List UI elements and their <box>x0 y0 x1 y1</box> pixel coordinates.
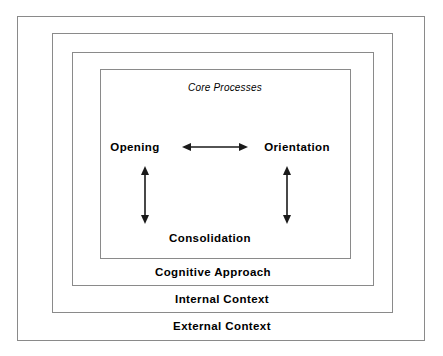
arrow-opening-orientation <box>180 139 250 155</box>
label-external-context: External Context <box>173 320 271 332</box>
arrow-orientation-consolidation <box>279 164 295 226</box>
label-internal-context: Internal Context <box>175 293 269 305</box>
label-cognitive-approach: Cognitive Approach <box>155 266 271 278</box>
label-core-processes: Core Processes <box>188 82 262 93</box>
diagram-canvas: Core Processes Opening Orientation Conso… <box>0 0 443 356</box>
node-label-consolidation: Consolidation <box>169 232 251 244</box>
node-label-opening: Opening <box>110 141 159 153</box>
node-label-orientation: Orientation <box>264 141 330 153</box>
arrow-opening-consolidation <box>137 164 153 226</box>
